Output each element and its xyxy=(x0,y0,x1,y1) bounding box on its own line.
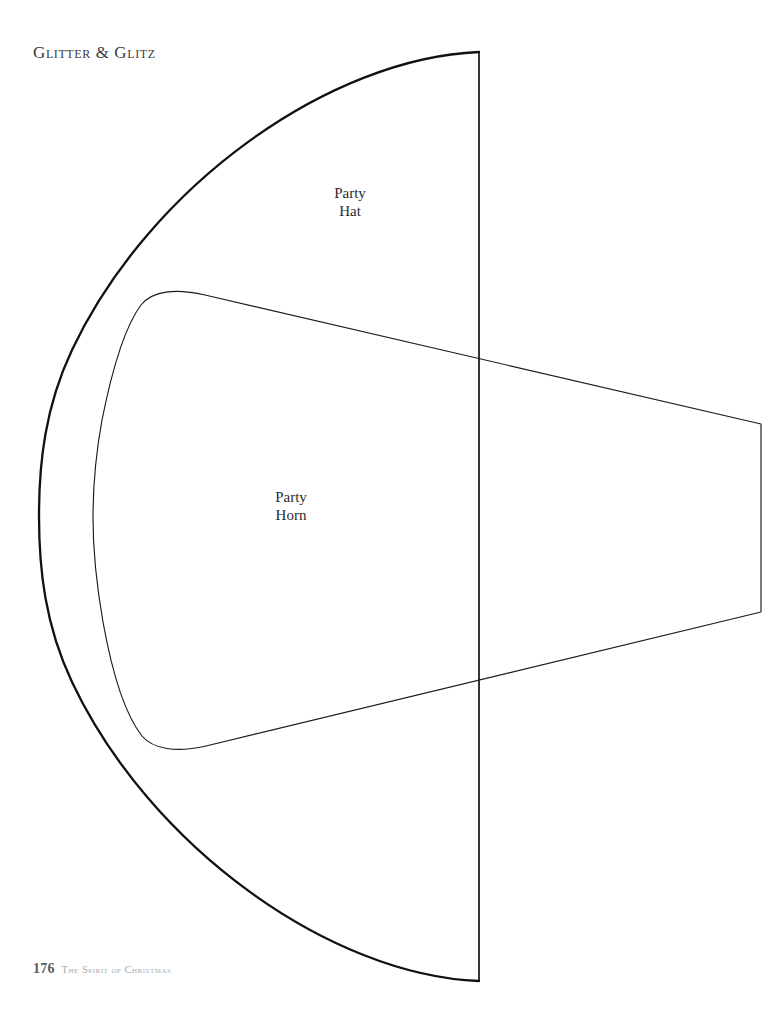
party-horn-outline xyxy=(93,291,761,749)
label-party-hat: Party Hat xyxy=(310,184,390,221)
label-party-horn-line1: Party xyxy=(251,488,331,506)
label-party-horn-line2: Horn xyxy=(251,506,331,524)
book-title: The Spirit of Christmas xyxy=(62,965,172,976)
pattern-artwork xyxy=(0,0,783,1011)
pattern-page: Glitter & Glitz Party Hat Party Horn 176… xyxy=(0,0,783,1011)
label-party-hat-line1: Party xyxy=(310,184,390,202)
label-party-horn: Party Horn xyxy=(251,488,331,525)
folio: 176 The Spirit of Christmas xyxy=(33,962,171,976)
label-party-hat-line2: Hat xyxy=(310,202,390,220)
page-number: 176 xyxy=(33,962,55,976)
